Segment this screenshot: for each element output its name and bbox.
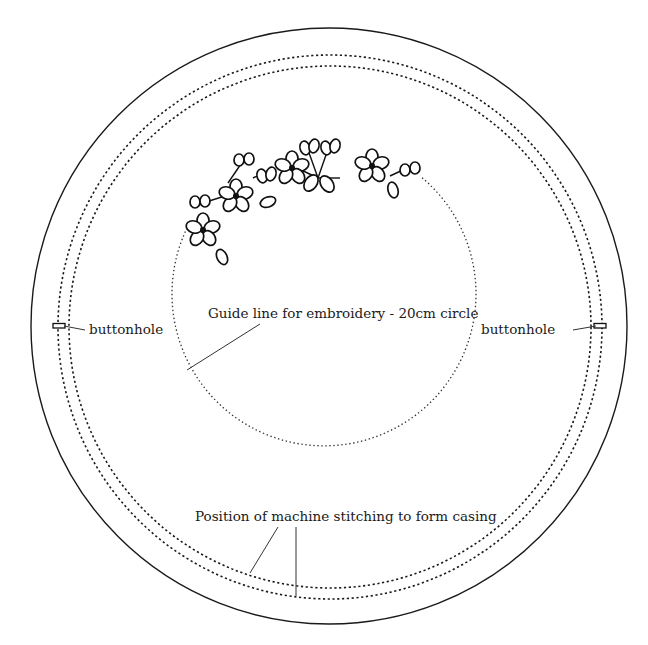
leader-casing-outer <box>250 527 278 573</box>
casing-label: Position of machine stitching to form ca… <box>195 508 497 524</box>
leaf-sprig-icon <box>234 153 254 166</box>
buttonhole-left-icon <box>53 324 65 329</box>
leaf-icon <box>317 173 337 195</box>
buttonhole-left-label: buttonhole <box>89 321 163 337</box>
leaf-icon <box>386 181 400 199</box>
leaf-sprig-icon <box>298 138 320 156</box>
flower-icon <box>185 213 222 248</box>
leaf-icon <box>259 195 277 210</box>
buttonhole-right-label: buttonhole <box>481 321 555 337</box>
leader-buttonhole-left <box>64 326 85 330</box>
embroidery-flower-garland <box>185 138 420 266</box>
leaf-icon <box>214 248 230 267</box>
leader-buttonhole-right <box>573 326 596 330</box>
leaf-sprig-icon <box>190 195 210 208</box>
guide-line-label: Guide line for embroidery - 20cm circle <box>208 305 478 321</box>
leaf-sprig-icon <box>400 162 420 176</box>
pattern-diagram: buttonhole buttonhole Guide line for emb… <box>0 0 648 645</box>
leaf-sprig-icon <box>255 166 277 184</box>
leaf-sprig-icon <box>319 138 341 156</box>
flower-icon <box>354 149 391 184</box>
flower-icon <box>218 179 255 214</box>
leader-guide-line <box>187 324 260 370</box>
